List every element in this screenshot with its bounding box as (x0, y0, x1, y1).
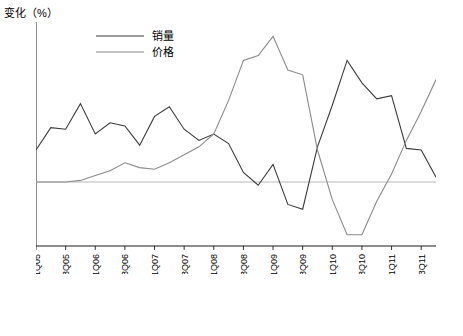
legend-label-2: 价格 (152, 45, 174, 58)
x-tick-label: 1Q11 (387, 254, 397, 274)
line-chart-svg: -4-202468101Q053Q051Q063Q061Q073Q071Q083… (36, 22, 436, 274)
x-tick-label: 3Q09 (298, 254, 308, 274)
x-tick-label: 1Q06 (91, 254, 101, 274)
x-tick-label: 1Q09 (269, 254, 279, 274)
x-tick-label: 3Q11 (417, 254, 427, 274)
series-line-1 (36, 60, 436, 209)
x-tick-label: 1Q05 (36, 254, 42, 274)
x-tick-label: 1Q10 (328, 254, 338, 274)
series-line-2 (36, 36, 436, 234)
y-axis-title: 变化（%） (4, 4, 58, 20)
plot-area: -4-202468101Q053Q051Q063Q061Q073Q071Q083… (36, 22, 436, 274)
x-tick-label: 3Q07 (180, 254, 190, 274)
chart-container: 变化（%） -4-202468101Q053Q051Q063Q061Q073Q0… (0, 0, 463, 336)
x-tick-label: 3Q10 (357, 254, 367, 274)
x-tick-label: 3Q05 (61, 254, 71, 274)
x-tick-label: 3Q08 (239, 254, 249, 274)
legend-label-1: 销量 (152, 29, 174, 42)
x-tick-label: 1Q08 (209, 254, 219, 274)
x-tick-label: 3Q06 (120, 254, 130, 274)
x-tick-label: 1Q07 (150, 254, 160, 274)
